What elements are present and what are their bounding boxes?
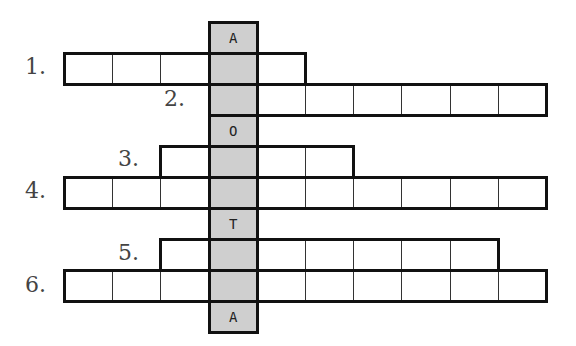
answer-cell[interactable] xyxy=(450,270,499,302)
answer-cell[interactable] xyxy=(64,270,113,302)
answer-cell[interactable] xyxy=(305,239,354,271)
answer-cell[interactable] xyxy=(112,270,161,302)
cell-letter: O xyxy=(210,116,257,146)
key-column-cell[interactable]: T xyxy=(209,208,258,240)
answer-cell[interactable] xyxy=(353,239,402,271)
cell-letter xyxy=(210,271,257,301)
answer-cell[interactable] xyxy=(401,84,450,116)
answer-cell[interactable] xyxy=(401,177,450,209)
key-column-cell[interactable] xyxy=(209,239,258,271)
answer-cell[interactable] xyxy=(353,84,402,116)
answer-cell[interactable] xyxy=(450,177,499,209)
answer-cell[interactable] xyxy=(257,239,306,271)
clue-number-4: 4. xyxy=(25,178,46,203)
answer-cell[interactable] xyxy=(401,239,450,271)
answer-cell[interactable] xyxy=(498,177,547,209)
answer-cell[interactable] xyxy=(305,177,354,209)
answer-cell[interactable] xyxy=(450,84,499,116)
clue-number-6: 6. xyxy=(25,272,46,297)
clue-number-3: 3. xyxy=(118,146,139,171)
answer-cell[interactable] xyxy=(160,239,209,271)
answer-cell[interactable] xyxy=(160,146,209,178)
cell-letter xyxy=(210,147,257,177)
answer-cell[interactable] xyxy=(498,270,547,302)
key-column-cell[interactable]: A xyxy=(209,301,258,333)
cell-letter xyxy=(210,178,257,208)
cell-letter: A xyxy=(210,302,257,332)
answer-cell[interactable] xyxy=(257,84,306,116)
key-column-cell[interactable]: O xyxy=(209,115,258,147)
crossword-grid: AOTA1.2.3.4.5.6. xyxy=(0,0,576,346)
answer-cell[interactable] xyxy=(353,177,402,209)
key-column-cell[interactable] xyxy=(209,53,258,85)
clue-number-2: 2. xyxy=(164,86,185,111)
answer-cell[interactable] xyxy=(257,177,306,209)
answer-cell[interactable] xyxy=(257,146,306,178)
answer-cell[interactable] xyxy=(305,146,354,178)
answer-cell[interactable] xyxy=(160,53,209,85)
key-column-cell[interactable] xyxy=(209,84,258,116)
answer-cell[interactable] xyxy=(498,84,547,116)
clue-number-5: 5. xyxy=(118,240,139,265)
answer-cell[interactable] xyxy=(160,177,209,209)
answer-cell[interactable] xyxy=(64,53,113,85)
key-column-cell[interactable] xyxy=(209,146,258,178)
cell-letter xyxy=(210,85,257,115)
answer-cell[interactable] xyxy=(401,270,450,302)
key-column-cell[interactable] xyxy=(209,270,258,302)
answer-cell[interactable] xyxy=(305,84,354,116)
answer-cell[interactable] xyxy=(257,270,306,302)
cell-letter: A xyxy=(210,23,257,53)
answer-cell[interactable] xyxy=(112,177,161,209)
cell-letter: T xyxy=(210,209,257,239)
answer-cell[interactable] xyxy=(353,270,402,302)
cell-letter xyxy=(210,240,257,270)
answer-cell[interactable] xyxy=(450,239,499,271)
answer-cell[interactable] xyxy=(305,270,354,302)
answer-cell[interactable] xyxy=(257,53,306,85)
cell-letter xyxy=(210,54,257,84)
key-column-cell[interactable]: A xyxy=(209,22,258,54)
answer-cell[interactable] xyxy=(112,53,161,85)
answer-cell[interactable] xyxy=(64,177,113,209)
answer-cell[interactable] xyxy=(160,270,209,302)
key-column-cell[interactable] xyxy=(209,177,258,209)
clue-number-1: 1. xyxy=(25,54,46,79)
